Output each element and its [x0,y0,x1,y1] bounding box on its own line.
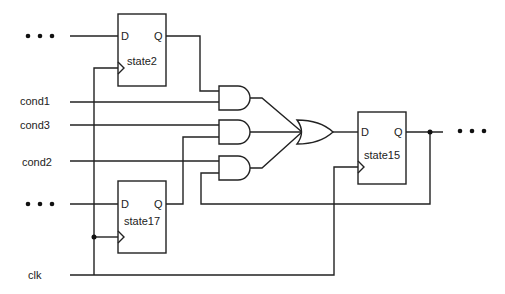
flipflop-state15: D Q state15 [358,112,406,184]
junction-state15-q [428,130,433,135]
circuit-svg: cond1 cond3 cond2 clk [0,0,505,294]
flipflop-label: state17 [124,215,160,227]
flipflop-label: state15 [364,149,400,161]
flipflop-state17: D Q state17 [118,181,166,253]
label-cond2: cond2 [22,156,52,168]
wire-state2-q [166,36,219,91]
flipflop-label: state2 [127,55,157,67]
ellipsis-bottom-left [26,202,55,207]
label-cond1: cond1 [20,95,50,107]
and-gate-3-icon [219,156,250,180]
pin-q: Q [154,30,163,42]
wire-state17-q [166,137,219,204]
flipflop-state2: D Q state2 [118,14,166,86]
pin-q: Q [154,198,163,210]
junction-clk [92,235,97,240]
circuit-diagram: cond1 cond3 cond2 clk [0,0,505,294]
label-clk: clk [28,269,42,281]
pin-d: D [361,126,369,138]
pin-d: D [121,30,129,42]
wire-clk-state2 [94,68,118,275]
wire-and3-or [250,132,302,168]
ellipsis-right [458,129,487,134]
and-gate-1-icon [219,86,250,110]
pin-q: Q [394,126,403,138]
and-gate-2-icon [219,120,250,144]
ellipsis-top-left [26,34,55,39]
wire-and1-or [250,98,302,132]
or-gate-icon [297,120,333,144]
pin-d: D [121,198,129,210]
label-cond3: cond3 [20,119,50,131]
wire-clk-state15 [70,167,358,275]
